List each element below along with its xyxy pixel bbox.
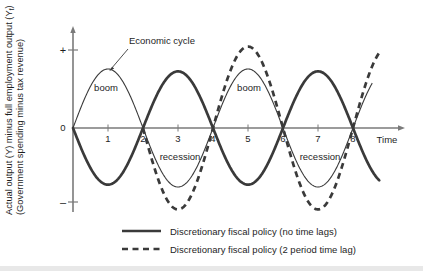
y-axis-label-line1: Actual output (Y) minus full employment … (4, 5, 15, 215)
economic-cycle-annotation-label: Economic cycle (129, 35, 195, 46)
economic-cycle-fiscal-policy-figure: Actual output (Y) minus full employment … (0, 0, 423, 271)
economic-cycle-annotation: Economic cycle (109, 35, 195, 71)
x-tick-label-3: 3 (175, 133, 180, 144)
x-tick-label-7: 7 (315, 133, 320, 144)
y-axis-arrowhead (70, 26, 75, 33)
recession-label-1: recession (160, 151, 201, 162)
x-tick-label-5: 5 (245, 133, 250, 144)
x-axis-arrowhead (398, 125, 405, 130)
y-axis-negative-label: – (60, 196, 67, 208)
axis-lines (68, 26, 405, 212)
x-axis-title: Time (377, 134, 398, 145)
legend-label-no-lag: Discretionary fiscal policy (no time lag… (170, 226, 337, 237)
recession-label-2: recession (300, 151, 341, 162)
legend-label-two-period-lag: Discretionary fiscal policy (2 period ti… (170, 244, 356, 255)
chart-canvas: Actual output (Y) minus full employment … (0, 0, 423, 271)
y-axis-label-group: Actual output (Y) minus full employment … (4, 5, 25, 215)
y-axis-zero-label: 0 (60, 122, 65, 133)
boom-label-1: boom (94, 82, 118, 93)
legend: Discretionary fiscal policy (no time lag… (122, 226, 356, 255)
economic-cycle-leader-line (111, 49, 128, 69)
boom-label-2: boom (237, 82, 261, 93)
y-axis-positive-label: + (60, 44, 66, 56)
y-axis-label-line2: (Government spending minus tax revenue) (15, 39, 25, 215)
x-tick-label-1: 1 (105, 133, 110, 144)
page-edge-strip (0, 266, 423, 271)
